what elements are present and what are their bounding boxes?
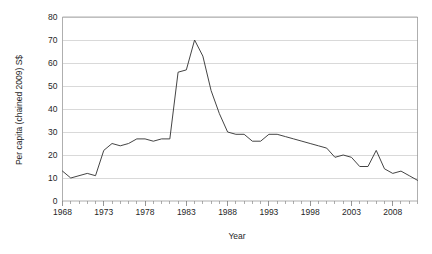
x-tick-label-1983: 1983 (177, 207, 196, 217)
x-tick-label-2003: 2003 (342, 207, 361, 217)
x-tick-labels: 196819731978198319881993199820032008 (53, 207, 402, 217)
y-tick-labels: 01020304050607080 (48, 12, 58, 206)
y-axis-title: Per capita (chained 2009) S$ (14, 55, 24, 165)
y-tick-label-50: 50 (48, 81, 58, 91)
x-tick-label-1978: 1978 (136, 207, 155, 217)
line-chart: 01020304050607080 1968197319781983198819… (0, 0, 432, 254)
y-tick-label-80: 80 (48, 12, 58, 22)
y-tick-label-0: 0 (53, 196, 58, 206)
x-tick-label-1993: 1993 (259, 207, 278, 217)
figure-container: 01020304050607080 1968197319781983198819… (0, 0, 432, 254)
x-axis-title: Year (228, 231, 245, 241)
x-tick-label-1968: 1968 (53, 207, 72, 217)
x-tick-label-1973: 1973 (94, 207, 113, 217)
series-path-0 (63, 40, 418, 180)
x-tick-marks (63, 201, 418, 206)
x-tick-label-1998: 1998 (301, 207, 320, 217)
y-tick-label-60: 60 (48, 58, 58, 68)
y-tick-label-40: 40 (48, 104, 58, 114)
data-series (63, 40, 418, 180)
gridlines (63, 17, 418, 178)
y-tick-label-10: 10 (48, 173, 58, 183)
y-tick-label-30: 30 (48, 127, 58, 137)
x-tick-label-1988: 1988 (218, 207, 237, 217)
x-tick-label-2008: 2008 (383, 207, 402, 217)
y-tick-label-20: 20 (48, 150, 58, 160)
y-tick-label-70: 70 (48, 35, 58, 45)
